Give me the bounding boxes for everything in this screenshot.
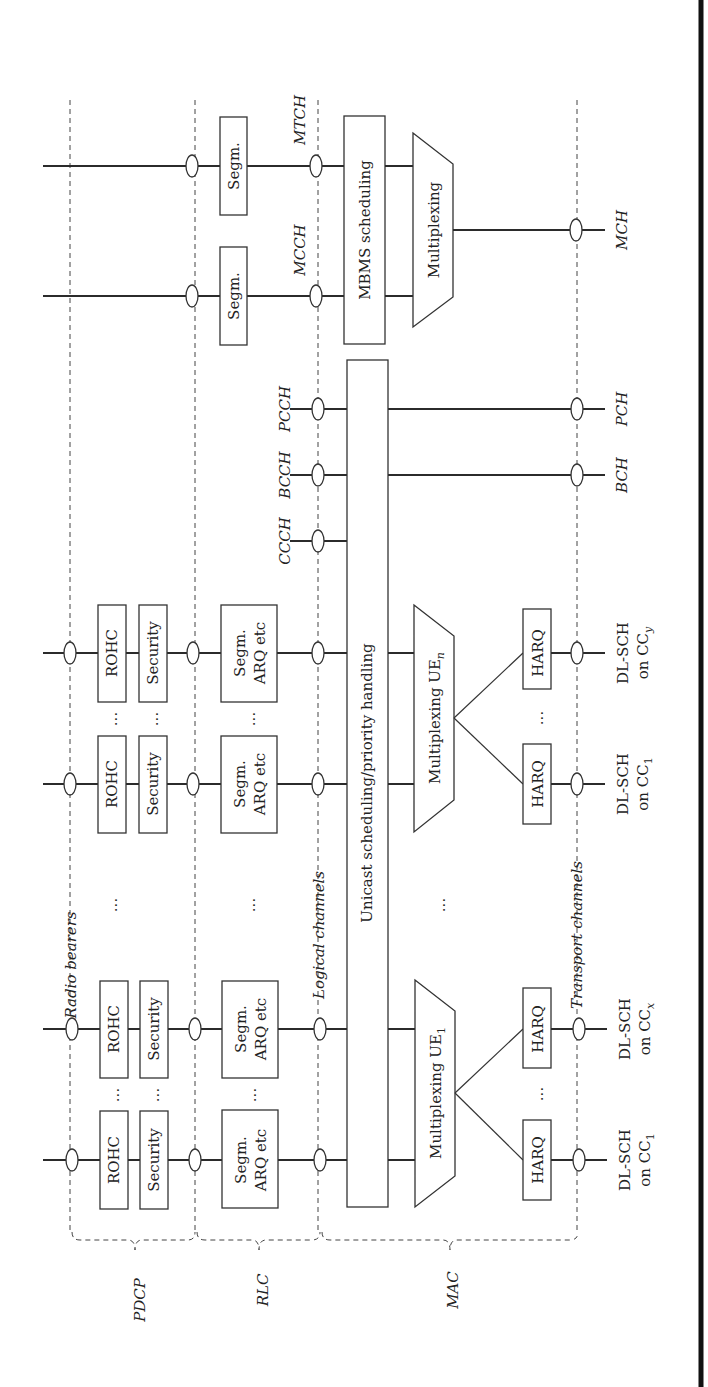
radio-bearers-label: Radio bearers: [62, 911, 80, 1019]
rohc-label: ROHC: [103, 629, 121, 677]
cc-x-label: on CCx: [636, 1002, 657, 1055]
pcch-label: PCCH: [276, 385, 294, 433]
ellipsis: ...: [241, 898, 259, 912]
cc-1-label: on CC1: [634, 757, 655, 810]
unicast-scheduling-label: Unicast scheduling/priority handling: [358, 643, 376, 923]
dlsch-label: DL-SCH: [614, 753, 632, 815]
mtch-segm-label: Segm.: [225, 142, 243, 190]
rohc-label: ROHC: [105, 1005, 123, 1053]
arq-label: ARQ etc: [252, 1129, 270, 1193]
mac-label: MAC: [444, 1271, 462, 1310]
dlsch-label: DL-SCH: [616, 998, 634, 1060]
security-label: Security: [145, 997, 163, 1061]
cc-y-label: on CCy: [634, 626, 655, 679]
cc-1-label: on CC1: [636, 1133, 657, 1186]
security-label: Security: [145, 1128, 163, 1192]
ellipsis: ...: [242, 1088, 260, 1102]
ellipsis: ...: [529, 1087, 547, 1101]
ccch-label: CCCH: [276, 516, 294, 564]
mbms-multiplexing-label: Multiplexing: [425, 181, 443, 278]
mbms-scheduling-label: MBMS scheduling: [356, 160, 374, 300]
mcch-label: MCCH: [291, 223, 309, 276]
arq-label: ARQ etc: [252, 998, 270, 1062]
bcch-label: BCCH: [276, 450, 294, 499]
mtch-label: MTCH: [291, 94, 309, 146]
diagram-labels: PDCP RLC MAC Radio bearers Logical chann…: [0, 0, 708, 1387]
segm-label: Segm.: [232, 1005, 250, 1053]
pch-label: PCH: [613, 391, 631, 428]
mch-label: MCH: [613, 209, 631, 251]
bch-label: BCH: [613, 456, 631, 494]
harq-label: HARQ: [529, 1136, 547, 1184]
multiplexing-uen-label: Multiplexing UEn: [426, 652, 447, 784]
arq-label: ARQ etc: [251, 622, 269, 686]
segm-label: Segm.: [231, 760, 249, 808]
harq-label: HARQ: [529, 760, 547, 808]
rohc-label: ROHC: [105, 1136, 123, 1184]
ellipsis: ...: [105, 1088, 123, 1102]
transport-channels-label: Transport channels: [568, 861, 586, 1009]
ellipsis: ...: [144, 712, 162, 726]
mcch-segm-label: Segm.: [225, 272, 243, 320]
rlc-label: RLC: [254, 1273, 272, 1307]
multiplexing-ue1-label: Multiplexing UE1: [427, 1027, 448, 1159]
pdcp-label: PDCP: [131, 1277, 149, 1323]
dlsch-label: DL-SCH: [616, 1129, 634, 1191]
harq-label: HARQ: [529, 1005, 547, 1053]
segm-label: Segm.: [232, 1136, 250, 1184]
rohc-label: ROHC: [103, 760, 121, 808]
segm-label: Segm.: [231, 629, 249, 677]
ellipsis: ...: [529, 711, 547, 725]
arq-label: ARQ etc: [251, 753, 269, 817]
ellipsis: ...: [241, 712, 259, 726]
dlsch-label: DL-SCH: [614, 622, 632, 684]
harq-label: HARQ: [529, 629, 547, 677]
ellipsis: ...: [103, 712, 121, 726]
logical-channels-label: Logical channels: [310, 871, 328, 1000]
ellipsis: ...: [431, 898, 449, 912]
ellipsis: ...: [145, 1088, 163, 1102]
security-label: Security: [144, 621, 162, 685]
security-label: Security: [144, 752, 162, 816]
ellipsis: ...: [103, 898, 121, 912]
